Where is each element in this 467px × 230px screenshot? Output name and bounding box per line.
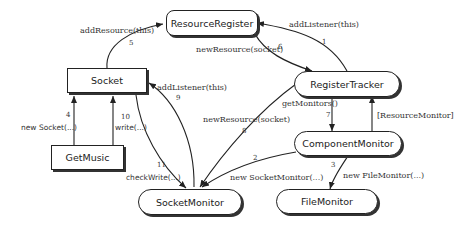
num-4: 4 xyxy=(66,112,70,119)
label-new-resource-6: newResource(socket) xyxy=(196,46,283,54)
node-socket-monitor: SocketMonitor xyxy=(138,189,242,215)
num-9: 9 xyxy=(176,95,180,102)
label-add-listener-9: addListener(this) xyxy=(157,84,227,92)
node-component-monitor: ComponentMonitor xyxy=(294,131,402,156)
num-10: 10 xyxy=(121,114,130,121)
num-2: 2 xyxy=(253,155,257,162)
num-8: 8 xyxy=(242,128,246,135)
label-new-file-monitor: new FileMonitor(...) xyxy=(343,172,424,180)
label-new-socket: new Socket(...) xyxy=(21,124,77,132)
label-new-resource-8: newResource(socket) xyxy=(203,116,290,124)
node-register-tracker: RegisterTracker xyxy=(294,71,400,97)
node-socket: Socket xyxy=(67,68,147,93)
num-7: 7 xyxy=(326,112,330,119)
label-check-write: checkWrite(...) xyxy=(126,174,181,182)
node-get-music: GetMusic xyxy=(51,145,124,170)
num-11: 11 xyxy=(157,162,166,169)
label-get-monitors: getMonitors() xyxy=(282,100,338,108)
label-resource-monitor: [ResourceMonitor] xyxy=(377,112,454,120)
num-6: 6 xyxy=(278,44,282,51)
label-add-listener-1: addListener(this) xyxy=(289,21,359,29)
num-1: 1 xyxy=(322,39,326,46)
label-write: write(...) xyxy=(115,124,147,132)
num-5: 5 xyxy=(129,40,133,47)
node-file-monitor: FileMonitor xyxy=(276,189,378,214)
num-3: 3 xyxy=(331,162,335,169)
label-new-socket-monitor: new SocketMonitor(...) xyxy=(230,174,323,182)
label-add-resource: addResource(this) xyxy=(80,27,154,35)
edge-9-add-listener xyxy=(149,83,194,187)
node-resource-register: ResourceRegister xyxy=(166,10,258,36)
